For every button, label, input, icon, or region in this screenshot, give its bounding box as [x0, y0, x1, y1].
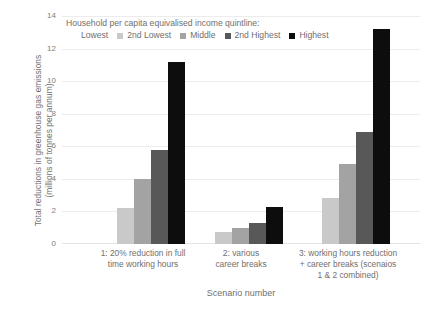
legend-items: Lowest2nd LowestMiddle2nd HighestHighest: [66, 30, 416, 41]
legend-item: Highest: [289, 30, 328, 41]
legend-label: 2nd Highest: [235, 30, 281, 41]
bar: [168, 62, 185, 244]
x-axis-tick-label-line: 3: working hours reduction: [278, 248, 418, 259]
plot-area: Household per capita equivalised income …: [62, 16, 420, 244]
y-axis-tick-label: 8: [34, 110, 56, 118]
legend-item: Middle: [180, 30, 215, 41]
legend-swatch-icon: [117, 33, 123, 39]
bar: [322, 198, 339, 244]
legend-item: 2nd Lowest: [117, 30, 171, 41]
y-axis-tick-label: 14: [34, 12, 56, 20]
bar-group: [100, 16, 185, 244]
bar-chart: Total reductions in greenhouse gas emiss…: [0, 0, 426, 313]
bar: [249, 223, 266, 244]
bar-group: [198, 16, 283, 244]
bar: [266, 207, 283, 244]
x-axis-tick-label-line: 1: 20% reduction in full: [87, 248, 199, 259]
y-axis-tick-label: 4: [34, 175, 56, 183]
bar: [356, 132, 373, 244]
y-axis-tick-label: 0: [34, 240, 56, 248]
bar: [134, 179, 151, 244]
bar: [151, 150, 168, 244]
x-axis-tick-label-line: + career breaks (scenaios: [278, 259, 418, 270]
legend-item: Lowest: [81, 30, 108, 41]
bar: [232, 228, 249, 244]
x-axis-tick-label: 1: 20% reduction in fulltime working hou…: [87, 248, 199, 270]
bar-group: [305, 16, 390, 244]
x-axis-tick-label-line: 1 & 2 combined): [278, 270, 418, 281]
legend-swatch-icon: [180, 33, 186, 39]
legend-label: Lowest: [81, 30, 108, 41]
x-axis-tick-labels: 1: 20% reduction in fulltime working hou…: [62, 248, 420, 288]
y-axis-tick-label: 10: [34, 77, 56, 85]
y-axis-tick-label: 2: [34, 207, 56, 215]
bar: [339, 164, 356, 244]
x-axis-title: Scenario number: [62, 288, 420, 299]
legend-label: Middle: [190, 30, 215, 41]
y-axis-tick-labels: 02468101214: [34, 0, 56, 313]
legend-label: 2nd Lowest: [127, 30, 171, 41]
x-axis-tick-label: 2: variouscareer breaks: [195, 248, 287, 270]
legend-item: 2nd Highest: [225, 30, 281, 41]
y-axis-tick-label: 6: [34, 142, 56, 150]
x-axis-tick-label-line: career breaks: [195, 259, 287, 270]
bar: [215, 232, 232, 244]
y-axis-tick-label: 12: [34, 45, 56, 53]
legend-title: Household per capita equivalised income …: [66, 18, 416, 29]
legend-label: Highest: [299, 30, 328, 41]
x-axis-tick-label: 3: working hours reduction+ career break…: [278, 248, 418, 281]
legend: Household per capita equivalised income …: [66, 18, 416, 41]
bar: [373, 29, 390, 244]
x-axis-tick-label-line: 2: various: [195, 248, 287, 259]
bar: [117, 208, 134, 244]
legend-swatch-icon: [289, 33, 295, 39]
legend-swatch-icon: [225, 33, 231, 39]
x-axis-tick-label-line: time working hours: [87, 259, 199, 270]
bar-groups: [62, 16, 420, 244]
